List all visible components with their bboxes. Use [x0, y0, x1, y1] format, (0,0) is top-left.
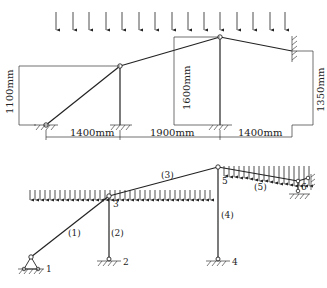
node-label-6: 6 — [301, 182, 307, 192]
member-label-5: (5) — [254, 182, 267, 192]
member-label-3: (3) — [161, 170, 174, 180]
bottom-load-arrows-left — [30, 190, 210, 200]
dim-h-mid: 1600mm — [181, 65, 192, 110]
node-label-3: 3 — [113, 199, 119, 209]
dim-span-3: 1400mm — [238, 127, 283, 138]
bottom-frame-members — [31, 167, 308, 259]
top-load-arrows — [56, 12, 285, 30]
top-hinges — [44, 35, 222, 127]
member-label-2: (2) — [111, 228, 124, 238]
bottom-supports — [18, 174, 315, 274]
node-label-4: 4 — [232, 257, 238, 267]
dim-span-1: 1400mm — [70, 127, 115, 138]
member-label-1: (1) — [68, 228, 81, 238]
dim-h-right: 1350mm — [315, 67, 326, 112]
node-label-2: 2 — [123, 257, 129, 267]
top-ground-supports — [34, 36, 297, 130]
dim-h-left: 1100mm — [4, 69, 15, 114]
member-label-4: (4) — [221, 210, 234, 220]
node-label-5: 5 — [222, 176, 228, 186]
frame-diagram: 1100mm 1600mm 1350mm 1400mm 1900mm 1400m… — [0, 0, 327, 288]
dim-span-2: 1900mm — [150, 127, 195, 138]
node-label-1: 1 — [46, 264, 52, 274]
top-frame-members — [46, 37, 292, 125]
